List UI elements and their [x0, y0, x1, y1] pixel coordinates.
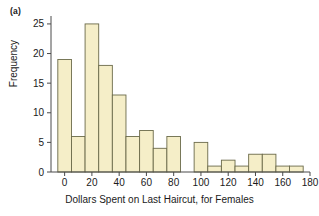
histogram-bar: [249, 154, 263, 172]
histogram-bar: [194, 142, 208, 172]
y-tick-label: 5: [38, 137, 44, 148]
histogram-bar: [290, 166, 304, 172]
x-tick-label: 60: [141, 177, 153, 188]
histogram-bar: [153, 148, 167, 172]
x-axis-ticks: 020406080100120140160180: [62, 172, 319, 188]
histogram-bar: [235, 166, 249, 172]
y-tick-label: 25: [33, 18, 45, 29]
histogram-bar: [58, 59, 72, 172]
histogram-bar: [112, 95, 126, 172]
x-tick-label: 40: [114, 177, 126, 188]
panel-label: (a): [10, 6, 21, 16]
y-tick-label: 15: [33, 78, 45, 89]
x-tick-label: 160: [274, 177, 291, 188]
y-tick-label: 20: [33, 48, 45, 59]
histogram-figure: (a) Frequency Dollars Spent on Last Hair…: [0, 0, 319, 216]
x-tick-label: 120: [220, 177, 237, 188]
x-tick-label: 0: [62, 177, 68, 188]
histogram-bar: [221, 160, 235, 172]
histogram-bar: [126, 136, 140, 172]
y-tick-label: 10: [33, 107, 45, 118]
histogram-bar: [71, 136, 85, 172]
histogram-bar: [99, 65, 113, 172]
histogram-bar: [276, 166, 290, 172]
histogram-plot: 020406080100120140160180 0510152025: [0, 0, 319, 216]
y-tick-label: 0: [38, 167, 44, 178]
y-axis-label: Frequency: [8, 29, 19, 99]
x-tick-label: 140: [247, 177, 264, 188]
histogram-bar: [167, 136, 181, 172]
histogram-bar: [85, 24, 99, 172]
x-tick-label: 20: [86, 177, 98, 188]
x-tick-label: 100: [193, 177, 210, 188]
bars-group: [58, 24, 303, 172]
y-axis-ticks: 0510152025: [33, 18, 51, 177]
x-axis-label: Dollars Spent on Last Haircut, for Femal…: [0, 194, 319, 205]
x-tick-label: 80: [168, 177, 180, 188]
histogram-bar: [262, 154, 276, 172]
histogram-bar: [208, 166, 222, 172]
x-tick-label: 180: [302, 177, 319, 188]
histogram-bar: [140, 131, 154, 172]
